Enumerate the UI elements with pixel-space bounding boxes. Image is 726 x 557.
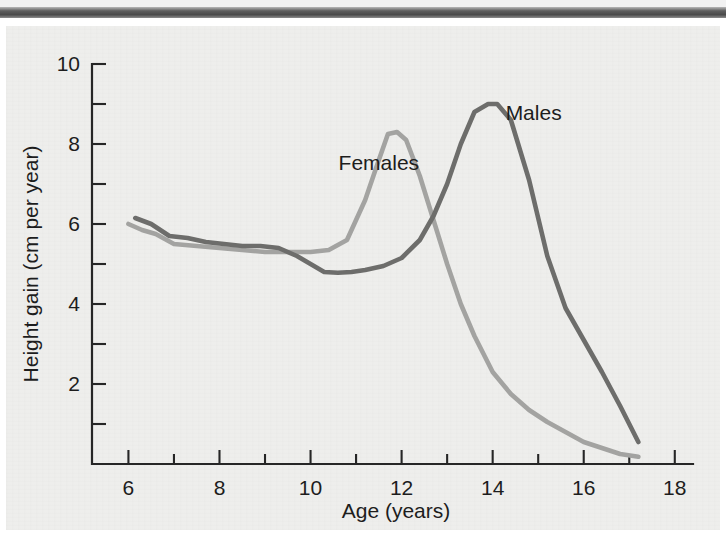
y-axis-title: Height gain (cm per year) xyxy=(19,146,42,383)
x-tick-label: 16 xyxy=(572,476,595,499)
x-tick-label: 6 xyxy=(123,476,135,499)
x-axis-major-ticks xyxy=(128,450,674,464)
y-tick-label: 6 xyxy=(68,212,80,235)
x-tick-label: 18 xyxy=(663,476,686,499)
series-label-males: Males xyxy=(506,101,562,124)
y-tick-label: 4 xyxy=(68,292,80,315)
y-axis-major-ticks xyxy=(92,64,106,384)
y-axis-tick-labels: 246810 xyxy=(57,52,81,395)
y-tick-label: 8 xyxy=(68,132,80,155)
series-label-females: Females xyxy=(339,151,420,174)
series-annotations: FemalesMales xyxy=(339,101,562,174)
figure-area: 246810 681012141618 FemalesMales Age (ye… xyxy=(6,26,720,530)
y-tick-label: 10 xyxy=(57,52,80,75)
x-tick-label: 14 xyxy=(481,476,505,499)
y-axis-minor-ticks xyxy=(92,104,106,424)
x-tick-label: 10 xyxy=(299,476,322,499)
x-axis-title: Age (years) xyxy=(342,499,451,522)
x-axis-tick-labels: 681012141618 xyxy=(123,476,687,499)
x-tick-label: 8 xyxy=(214,476,226,499)
y-tick-label: 2 xyxy=(68,372,80,395)
growth-velocity-chart: 246810 681012141618 FemalesMales Age (ye… xyxy=(6,26,720,530)
x-tick-label: 12 xyxy=(390,476,413,499)
scan-dark-band xyxy=(0,7,726,18)
page-canvas: 246810 681012141618 FemalesMales Age (ye… xyxy=(0,0,726,557)
